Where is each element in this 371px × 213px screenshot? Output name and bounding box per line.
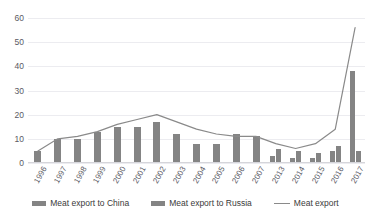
y-axis-tick-label: 50	[0, 38, 24, 46]
x-axis-category: 2015	[306, 164, 326, 192]
x-axis-category: 2013	[266, 164, 286, 192]
bar	[153, 122, 160, 163]
y-axis-tick-label: 60	[0, 14, 24, 22]
x-axis-category: 1999	[87, 164, 107, 192]
bar	[54, 139, 61, 163]
x-axis-line	[28, 162, 365, 163]
x-axis-category: 2014	[286, 164, 306, 192]
x-axis-category: 2005	[206, 164, 226, 192]
bar	[276, 149, 281, 164]
x-axis-tick-label: 1996	[32, 165, 49, 185]
bar	[134, 127, 141, 163]
x-axis-tick-label: 2017	[349, 165, 366, 185]
x-axis-category: 1996	[28, 164, 48, 192]
x-axis-tick-label: 2007	[250, 165, 267, 185]
bar-group	[28, 18, 48, 163]
bar-group	[48, 18, 68, 163]
y-axis-tick-label: 20	[0, 111, 24, 119]
bar-group	[206, 18, 226, 163]
bar	[94, 132, 101, 163]
x-axis-category: 2003	[167, 164, 187, 192]
bar-group	[127, 18, 147, 163]
bar-group	[107, 18, 127, 163]
bar	[350, 71, 355, 163]
x-axis-category: 2004	[187, 164, 207, 192]
y-axis-tick-label: 10	[0, 135, 24, 143]
bar-group	[147, 18, 167, 163]
x-axis-tick-label: 2004	[191, 165, 208, 185]
bar	[193, 144, 200, 163]
x-axis-tick-label: 2006	[230, 165, 247, 185]
x-axis-category: 2016	[325, 164, 345, 192]
x-axis-category: 2017	[345, 164, 365, 192]
legend-label: Meat export to Russia	[169, 198, 252, 208]
x-axis-category: 2000	[107, 164, 127, 192]
x-axis-tick-label: 2003	[171, 165, 188, 185]
x-axis-category: 2002	[147, 164, 167, 192]
bar-groups	[28, 18, 365, 163]
bar-group	[345, 18, 365, 163]
bar-group	[286, 18, 306, 163]
x-axis-tick-label: 1998	[72, 165, 89, 185]
legend-item[interactable]: Meat export	[274, 198, 339, 208]
x-axis-tick-label: 2013	[270, 165, 287, 185]
bar-group	[87, 18, 107, 163]
chart-legend: Meat export to ChinaMeat export to Russi…	[0, 196, 371, 210]
legend-bar-icon	[151, 201, 165, 206]
x-axis-category: 2001	[127, 164, 147, 192]
bar-group	[187, 18, 207, 163]
x-axis-category: 1997	[48, 164, 68, 192]
bar-group	[306, 18, 326, 163]
y-axis-tick-label: 40	[0, 62, 24, 70]
legend-line-icon	[274, 203, 290, 204]
bar-group	[246, 18, 266, 163]
x-axis-tick-label: 2001	[131, 165, 148, 185]
bar	[74, 139, 81, 163]
chart-title	[28, 0, 368, 6]
x-axis-tick-label: 2002	[151, 165, 168, 185]
x-axis-category: 1998	[68, 164, 88, 192]
legend-bar-icon	[32, 201, 46, 206]
legend-item[interactable]: Meat export to China	[32, 198, 129, 208]
plot-area	[28, 18, 365, 163]
bar-group	[167, 18, 187, 163]
x-axis-category: 2006	[226, 164, 246, 192]
bar	[336, 146, 341, 163]
bar	[213, 144, 220, 163]
x-axis: 1996199719981999200020012002200320042005…	[28, 164, 365, 192]
x-axis-tick-label: 1999	[91, 165, 108, 185]
x-axis-tick-label: 2015	[310, 165, 327, 185]
bar	[114, 127, 121, 163]
legend-item[interactable]: Meat export to Russia	[151, 198, 252, 208]
bar-group	[325, 18, 345, 163]
x-axis-tick-label: 1997	[52, 165, 69, 185]
x-axis-tick-label: 2014	[290, 165, 307, 185]
bar	[253, 136, 260, 163]
bar-group	[226, 18, 246, 163]
bar-group	[266, 18, 286, 163]
y-axis-tick-label: 30	[0, 87, 24, 95]
bar	[233, 134, 240, 163]
bar	[173, 134, 180, 163]
y-axis-tick-label: 0	[0, 159, 24, 167]
x-axis-tick-label: 2000	[111, 165, 128, 185]
legend-label: Meat export	[294, 198, 339, 208]
x-axis-category: 2007	[246, 164, 266, 192]
bar-group	[68, 18, 88, 163]
meat-export-chart: 0102030405060 19961997199819992000200120…	[0, 0, 371, 213]
x-axis-tick-label: 2016	[329, 165, 346, 185]
legend-label: Meat export to China	[50, 198, 129, 208]
x-axis-tick-label: 2005	[210, 165, 227, 185]
